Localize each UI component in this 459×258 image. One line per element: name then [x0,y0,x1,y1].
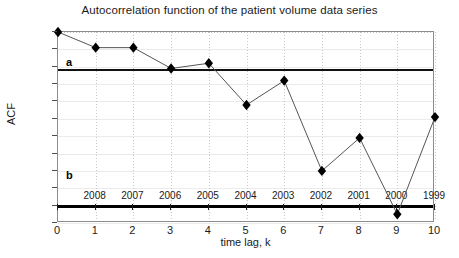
data-point-marker [92,42,100,52]
x-tick-label: 10 [414,224,454,236]
x-tick-label: 0 [37,224,77,236]
x-tick-label: 3 [150,224,190,236]
y-tick-mark [52,222,57,223]
x-tick-label: 8 [339,224,379,236]
y-tick-mark [52,170,57,171]
x-tick-mark [95,204,96,210]
x-tick-mark [132,204,133,210]
x-tick-label: 7 [301,224,341,236]
acf-series [58,32,435,223]
y-tick-mark [52,66,57,67]
x-tick-mark [283,204,284,210]
data-point-marker [393,209,401,219]
x-tick-mark [434,204,435,210]
data-point-marker [318,166,326,176]
x-tick-mark [321,204,322,210]
data-point-marker [167,63,175,73]
y-tick-mark [52,135,57,136]
x-tick-mark [396,204,397,210]
plot-area: 2008200720062005200420032002200120001999… [57,31,434,222]
y-tick-mark [52,153,57,154]
x-tick-mark [359,204,360,210]
acf-chart-figure: Autocorrelation function of the patient … [0,0,459,258]
x-tick-label: 9 [376,224,416,236]
x-axis-label: time lag, k [57,236,434,248]
data-point-marker [54,27,62,37]
y-tick-mark [52,118,57,119]
y-tick-mark [52,83,57,84]
series-line [58,32,435,214]
y-tick-mark [52,100,57,101]
x-tick-mark [208,204,209,210]
data-point-marker [280,75,288,85]
x-tick-label: 4 [188,224,228,236]
y-tick-mark [52,187,57,188]
y-tick-mark [52,48,57,49]
y-axis-label: ACF [5,89,17,139]
chart-title: Autocorrelation function of the patient … [0,4,459,16]
y-tick-mark [52,31,57,32]
data-point-marker [431,112,439,122]
data-point-marker [355,133,363,143]
x-tick-mark [57,204,58,210]
x-tick-label: 6 [263,224,303,236]
x-tick-mark [246,204,247,210]
x-tick-label: 5 [226,224,266,236]
data-point-marker [129,42,137,52]
x-tick-label: 2 [112,224,152,236]
x-tick-mark [170,204,171,210]
x-tick-label: 1 [75,224,115,236]
